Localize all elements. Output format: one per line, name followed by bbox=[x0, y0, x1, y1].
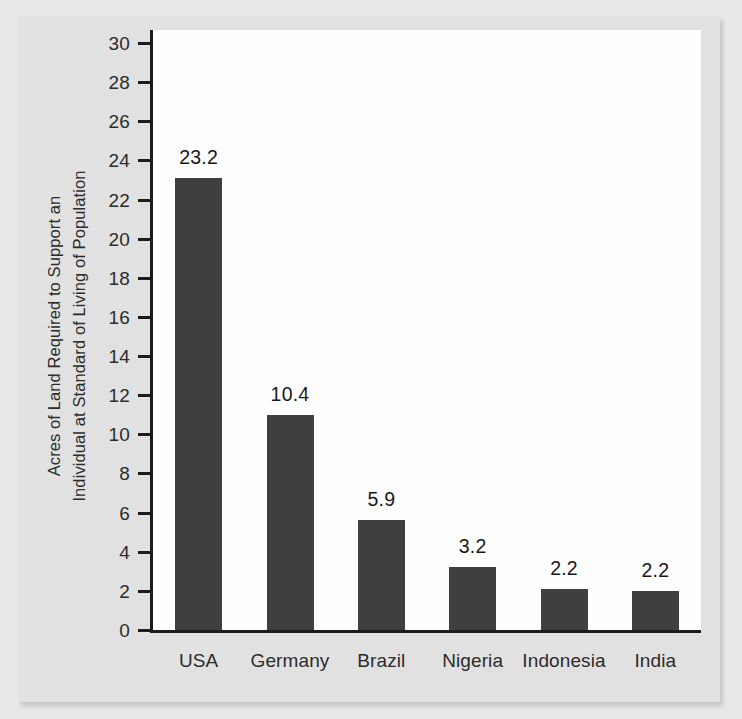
y-axis-tick-label: 6 bbox=[76, 504, 130, 523]
y-axis-tick-label: 10 bbox=[76, 425, 130, 444]
y-axis-tick-label: 0 bbox=[76, 621, 130, 640]
y-axis-tick-label: 12 bbox=[76, 386, 130, 405]
bar-germany[interactable] bbox=[267, 415, 314, 630]
y-axis-tick-mark bbox=[138, 394, 151, 397]
y-axis-tick-mark bbox=[138, 120, 151, 123]
bar-value-label-nigeria: 3.2 bbox=[428, 537, 518, 557]
y-axis-tick-mark bbox=[138, 512, 151, 515]
y-axis-tick-mark bbox=[138, 42, 151, 45]
bar-value-label-brazil: 5.9 bbox=[336, 490, 426, 510]
bar-nigeria[interactable] bbox=[449, 567, 496, 630]
y-axis-tick-label: 30 bbox=[76, 34, 130, 53]
bar-india[interactable] bbox=[632, 591, 679, 630]
plot-canvas bbox=[152, 30, 701, 631]
y-axis-tick-label: 26 bbox=[76, 112, 130, 131]
y-axis-tick-label: 18 bbox=[76, 269, 130, 288]
y-axis-tick-mark bbox=[138, 199, 151, 202]
y-axis-tick-label: 4 bbox=[76, 543, 130, 562]
bar-value-label-usa: 23.2 bbox=[154, 148, 244, 168]
x-axis-line bbox=[150, 630, 701, 633]
y-axis-tick-label: 2 bbox=[76, 582, 130, 601]
bar-value-label-germany: 10.4 bbox=[245, 385, 335, 405]
bar-value-label-india: 2.2 bbox=[610, 561, 700, 581]
y-axis-tick-mark bbox=[138, 472, 151, 475]
figure-root: Acres of Land Required to Support an Ind… bbox=[0, 0, 742, 719]
y-axis-tick-label: 28 bbox=[76, 73, 130, 92]
y-axis-title-line-1: Acres of Land Required to Support an bbox=[44, 196, 65, 477]
y-axis-tick-label: 24 bbox=[76, 151, 130, 170]
y-axis-tick-mark bbox=[138, 590, 151, 593]
bar-brazil[interactable] bbox=[358, 520, 405, 630]
x-axis-label-india: India bbox=[585, 651, 725, 670]
y-axis-tick-label: 20 bbox=[76, 230, 130, 249]
y-axis-tick-label: 16 bbox=[76, 308, 130, 327]
y-axis-tick-mark bbox=[138, 316, 151, 319]
y-axis-tick-mark bbox=[138, 433, 151, 436]
y-axis-tick-mark bbox=[138, 551, 151, 554]
y-axis-title-line-2: Individual at Standard of Living of Popu… bbox=[69, 170, 90, 501]
y-axis-tick-mark bbox=[138, 629, 151, 632]
y-axis-tick-label: 22 bbox=[76, 191, 130, 210]
y-axis-tick-label: 8 bbox=[76, 464, 130, 483]
bar-usa[interactable] bbox=[175, 178, 222, 630]
y-axis-tick-mark bbox=[138, 159, 151, 162]
y-axis-tick-mark bbox=[138, 277, 151, 280]
y-axis-tick-label: 14 bbox=[76, 347, 130, 366]
y-axis-tick-mark bbox=[138, 238, 151, 241]
bar-value-label-indonesia: 2.2 bbox=[519, 559, 609, 579]
bar-indonesia[interactable] bbox=[541, 589, 588, 630]
y-axis-tick-mark bbox=[138, 81, 151, 84]
y-axis-tick-mark bbox=[138, 355, 151, 358]
